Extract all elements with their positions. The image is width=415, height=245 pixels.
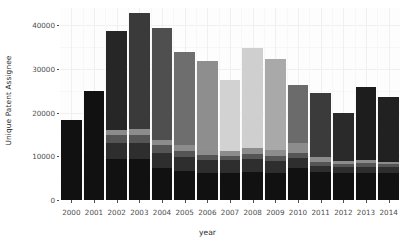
y-axis-tick-mark	[57, 25, 60, 26]
x-axis-tick-label: 2014	[380, 208, 398, 217]
bar-segment	[84, 91, 104, 200]
plot-panel	[60, 8, 400, 200]
y-axis-tick-label: 40000	[32, 21, 55, 30]
x-axis-tick-mark	[230, 200, 231, 203]
bar-segment	[288, 158, 308, 168]
bar-segment	[310, 166, 330, 172]
bar-segment	[129, 143, 149, 159]
x-axis-tick-mark	[207, 200, 208, 203]
bar-segment	[197, 173, 217, 200]
bar-segment	[129, 13, 149, 129]
bar-segment	[174, 52, 194, 146]
bar-chart: Unique Patent Assignee 01000020000300004…	[0, 0, 415, 245]
bar-segment	[174, 171, 194, 200]
x-axis-tick-label: 2005	[176, 208, 194, 217]
bar-segment	[152, 168, 172, 200]
x-axis-tick-label: 2000	[62, 208, 80, 217]
x-axis-tick-label: 2004	[153, 208, 171, 217]
bar-segment	[106, 143, 126, 160]
y-axis-tick-label: 0	[50, 196, 55, 205]
bar-2013[interactable]	[356, 87, 376, 200]
bar-segment	[129, 135, 149, 143]
bar-2006[interactable]	[197, 61, 217, 200]
bar-2000[interactable]	[61, 120, 81, 200]
y-axis-tick-label: 20000	[32, 108, 55, 117]
y-axis-tick-mark	[57, 113, 60, 114]
x-axis-tick-label: 2006	[198, 208, 216, 217]
x-axis-tick-mark	[298, 200, 299, 203]
bar-segment	[356, 163, 376, 166]
bar-segment	[288, 85, 308, 143]
bar-2010[interactable]	[288, 85, 308, 200]
bar-segment	[288, 143, 308, 153]
bar-2009[interactable]	[265, 59, 285, 200]
x-axis-tick-mark	[321, 200, 322, 203]
bar-segment	[265, 161, 285, 173]
y-axis-title-label: Unique Patent Assignee	[5, 55, 14, 145]
bar-segment	[378, 173, 398, 200]
x-axis-tick-label: 2009	[266, 208, 284, 217]
bar-segment	[310, 162, 330, 166]
bar-segment	[310, 157, 330, 162]
bar-2014[interactable]	[378, 97, 398, 200]
bar-segment	[356, 173, 376, 200]
bar-segment	[310, 93, 330, 157]
bar-segment	[220, 160, 240, 172]
bar-2007[interactable]	[220, 80, 240, 200]
bar-2011[interactable]	[310, 93, 330, 200]
bar-segment	[242, 159, 262, 172]
bar-segment	[288, 153, 308, 158]
bar-segment	[242, 154, 262, 159]
bar-segment	[106, 159, 126, 200]
bar-segment	[265, 156, 285, 161]
bar-segment	[378, 162, 398, 165]
bar-segment	[197, 160, 217, 173]
bar-segment	[152, 145, 172, 152]
bar-segment	[61, 120, 81, 200]
x-axis-tick-label: 2010	[289, 208, 307, 217]
bar-2012[interactable]	[333, 113, 353, 200]
bar-segment	[220, 156, 240, 161]
bar-segment	[333, 161, 353, 164]
bar-segment	[378, 97, 398, 162]
bar-segment	[197, 155, 217, 160]
y-axis-tick-mark	[57, 69, 60, 70]
bar-segment	[333, 113, 353, 161]
x-axis-tick-label: 2001	[85, 208, 103, 217]
bar-segment	[333, 164, 353, 167]
y-axis-tick-mark	[57, 200, 60, 201]
x-axis-tick-label: 2002	[108, 208, 126, 217]
bar-segment	[378, 164, 398, 167]
bar-2002[interactable]	[106, 31, 126, 200]
bar-segment	[152, 140, 172, 146]
bar-segment	[152, 153, 172, 168]
bar-2005[interactable]	[174, 52, 194, 200]
bar-segment	[310, 172, 330, 200]
bar-segment	[197, 150, 217, 154]
x-axis-tick-mark	[253, 200, 254, 203]
x-axis-tick-label: 2012	[334, 208, 352, 217]
bar-2001[interactable]	[84, 91, 104, 200]
y-axis-tick-mark	[57, 156, 60, 157]
bar-2003[interactable]	[129, 13, 149, 200]
x-axis-tick-label: 2003	[130, 208, 148, 217]
bar-2008[interactable]	[242, 48, 262, 200]
bar-segment	[129, 159, 149, 200]
x-axis-tick-mark	[275, 200, 276, 203]
x-axis-tick-label: 2008	[244, 208, 262, 217]
bar-segment	[333, 167, 353, 173]
x-axis-tick-mark	[389, 200, 390, 203]
bar-segment	[174, 145, 194, 150]
bar-segment	[106, 31, 126, 130]
x-axis-title: year	[0, 228, 415, 237]
y-axis-tick-label: 10000	[32, 152, 55, 161]
x-axis-tick-mark	[185, 200, 186, 203]
x-axis-tick-mark	[366, 200, 367, 203]
y-axis-title: Unique Patent Assignee	[2, 0, 16, 200]
y-axis-tick-label: 30000	[32, 65, 55, 74]
x-axis-tick-mark	[343, 200, 344, 203]
x-axis-tick-mark	[94, 200, 95, 203]
bar-segment	[106, 135, 126, 143]
bar-segment	[288, 168, 308, 200]
bar-2004[interactable]	[152, 28, 172, 200]
